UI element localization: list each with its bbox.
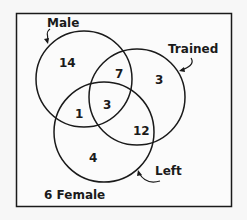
label-trained: Trained [168,42,218,56]
region-trained-left: 12 [133,124,150,138]
region-male-only: 14 [59,56,76,70]
region-male-trained: 7 [115,67,123,81]
venn-diagram: Male Trained Left 6 Female 14 7 3 1 3 12… [0,0,247,220]
region-left-only: 4 [89,151,97,165]
label-male: Male [47,16,79,30]
region-trained-only: 3 [155,73,163,87]
region-all-three: 3 [103,98,111,112]
label-left: Left [155,164,182,178]
region-male-left: 1 [75,107,83,121]
label-female-outside: 6 Female [44,188,105,202]
